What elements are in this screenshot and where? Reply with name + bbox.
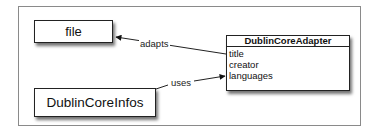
adapts-edge bbox=[116, 37, 226, 54]
dublin-core-infos-label: DublinCoreInfos bbox=[47, 95, 144, 110]
attribute-languages: languages bbox=[229, 70, 349, 81]
attribute-title: title bbox=[229, 48, 349, 59]
adapts-edge-label: adapts bbox=[139, 38, 170, 49]
uses-edge-label: uses bbox=[170, 77, 192, 88]
attribute-creator: creator bbox=[229, 59, 349, 70]
file-node[interactable]: file bbox=[34, 20, 113, 43]
class-name: DublinCoreAdapter bbox=[227, 36, 349, 47]
dublin-core-infos-node[interactable]: DublinCoreInfos bbox=[34, 88, 156, 117]
class-attributes: title creator languages bbox=[227, 47, 349, 81]
dublin-core-adapter-class[interactable]: DublinCoreAdapter title creator language… bbox=[226, 35, 350, 91]
file-node-label: file bbox=[65, 24, 82, 39]
